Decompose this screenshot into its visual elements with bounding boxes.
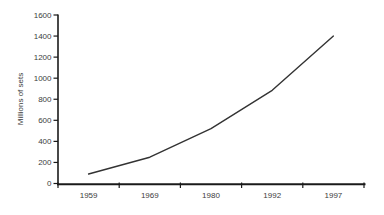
y-tick-label: 400 (38, 137, 52, 146)
y-tick-label: 1400 (34, 32, 52, 41)
y-tick-label: 1000 (34, 74, 52, 83)
y-tick-label: 200 (38, 158, 52, 167)
y-tick-label: 1600 (34, 11, 52, 20)
y-tick-label: 600 (38, 116, 52, 125)
x-tick-label: 1959 (80, 191, 98, 200)
y-tick-label: 800 (38, 95, 52, 104)
x-tick-label: 1969 (141, 191, 159, 200)
y-tick-label: 1200 (34, 53, 52, 62)
x-tick-label: 1992 (263, 191, 281, 200)
series-line (89, 36, 334, 174)
line-chart: 0200400600800100012001400160019591969198… (0, 0, 384, 215)
x-tick-label: 1980 (202, 191, 220, 200)
chart-canvas: 0200400600800100012001400160019591969198… (0, 0, 384, 215)
y-tick-label: 0 (47, 179, 52, 188)
y-axis-title: Millions of sets (15, 54, 27, 144)
x-tick-label: 1997 (325, 191, 343, 200)
